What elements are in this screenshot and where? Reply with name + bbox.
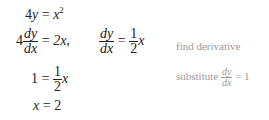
equation-line-2: 4dydx = 2x,: [16, 27, 70, 56]
equation-line-3: 1 = 12x: [31, 65, 68, 94]
annotation-find-derivative: find derivative: [176, 40, 240, 52]
equals-sign: =: [43, 98, 51, 113]
equals-sign: =: [42, 7, 50, 22]
denominator: dx: [23, 42, 38, 56]
numerator: dy: [99, 27, 114, 42]
denominator: dx: [99, 42, 114, 56]
derivative-fraction: dydx: [99, 27, 114, 56]
half-fraction: 12: [129, 27, 138, 56]
half-fraction: 12: [53, 65, 62, 94]
variable-y: y: [32, 7, 38, 22]
coefficient: 4: [25, 7, 32, 22]
lhs-value: 1: [31, 71, 38, 86]
equation-line-1: 4y = x2: [25, 5, 64, 23]
result-value: 2: [54, 98, 61, 113]
denominator: dx: [221, 78, 232, 88]
numerator: 1: [53, 65, 62, 80]
variable-x: x: [33, 98, 39, 113]
numerator: dy: [23, 27, 38, 42]
variable-x: x: [138, 33, 144, 48]
denominator: 2: [53, 80, 62, 94]
equation-line-4: x = 2: [33, 98, 61, 114]
annotation-substitute: substitute dydx = 1: [176, 67, 250, 88]
note-suffix: = 1: [235, 70, 249, 82]
note-derivative-fraction: dydx: [221, 67, 232, 88]
numerator: 1: [129, 27, 138, 42]
variable-x: x: [62, 71, 68, 86]
equals-sign: =: [42, 33, 50, 48]
coefficient: 4: [16, 33, 23, 48]
denominator: 2: [129, 42, 138, 56]
exponent: 2: [59, 5, 64, 15]
equals-sign: =: [42, 71, 50, 86]
note-prefix: substitute: [176, 70, 218, 82]
equals-sign: =: [118, 33, 126, 48]
derivative-fraction: dydx: [23, 27, 38, 56]
equation-line-2b: dydx = 12x: [99, 27, 144, 56]
rhs-expression: 2x,: [53, 33, 70, 48]
